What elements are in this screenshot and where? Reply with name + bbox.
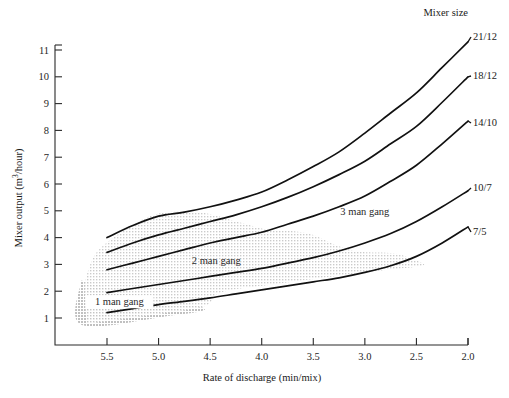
series-label-21-12: 21/12 xyxy=(473,31,497,42)
x-tick-label: 5.5 xyxy=(100,351,113,362)
x-tick-label: 3.5 xyxy=(307,351,320,362)
x-axis-ticks: 5.55.04.54.03.53.02.52.0 xyxy=(100,338,474,362)
mixer-output-chart: 1234567891011 5.55.04.54.03.53.02.52.0 2… xyxy=(0,0,509,398)
y-tick-label: 11 xyxy=(39,45,49,56)
svg-text:Mixer output (m3/hour): Mixer output (m3/hour) xyxy=(11,148,25,247)
leader-10-7 xyxy=(468,188,471,191)
series-label-10-7: 10/7 xyxy=(473,182,492,193)
x-tick-label: 5.0 xyxy=(152,351,165,362)
annotation-1-man-gang: 1 man gang xyxy=(95,296,145,307)
y-tick-label: 9 xyxy=(44,98,49,109)
leader-7-5 xyxy=(468,227,471,232)
x-tick-label: 2.0 xyxy=(461,351,474,362)
annotation-2-man-gang: 2 man gang xyxy=(192,255,242,266)
y-tick-label: 8 xyxy=(44,125,49,136)
y-tick-label: 5 xyxy=(44,205,49,216)
series-leader-lines xyxy=(468,37,471,232)
x-tick-label: 2.5 xyxy=(410,351,423,362)
y-tick-label: 6 xyxy=(44,179,49,190)
chart-container: 1234567891011 5.55.04.54.03.53.02.52.0 2… xyxy=(0,0,509,398)
series-labels: 21/1218/1214/1010/77/5 xyxy=(473,31,497,237)
y-axis-title-tail: /hour) xyxy=(13,148,25,174)
y-tick-label: 7 xyxy=(44,152,49,163)
leader-14-10 xyxy=(468,121,471,123)
series-label-7-5: 7/5 xyxy=(473,226,486,237)
series-label-18-12: 18/12 xyxy=(473,70,497,81)
y-axis-ticks: 1234567891011 xyxy=(39,45,63,324)
leader-21-12 xyxy=(468,37,471,42)
y-tick-label: 4 xyxy=(44,232,50,243)
x-axis-title: Rate of discharge (min/mix) xyxy=(203,372,322,384)
y-tick-label: 1 xyxy=(44,313,49,324)
y-tick-label: 3 xyxy=(44,259,49,270)
y-axis-title-main: Mixer output (m xyxy=(13,178,25,247)
leader-18-12 xyxy=(468,76,471,77)
series-curve-21-12 xyxy=(107,42,468,238)
x-tick-label: 3.0 xyxy=(358,351,371,362)
legend-title: Mixer size xyxy=(423,7,468,18)
x-tick-label: 4.0 xyxy=(255,351,268,362)
y-axis-title: Mixer output (m3/hour) xyxy=(11,148,25,247)
y-tick-label: 10 xyxy=(39,71,50,82)
x-tick-label: 4.5 xyxy=(204,351,217,362)
annotation-3-man-gang: 3 man gang xyxy=(340,206,390,217)
y-tick-label: 2 xyxy=(44,286,49,297)
series-label-14-10: 14/10 xyxy=(473,117,497,128)
